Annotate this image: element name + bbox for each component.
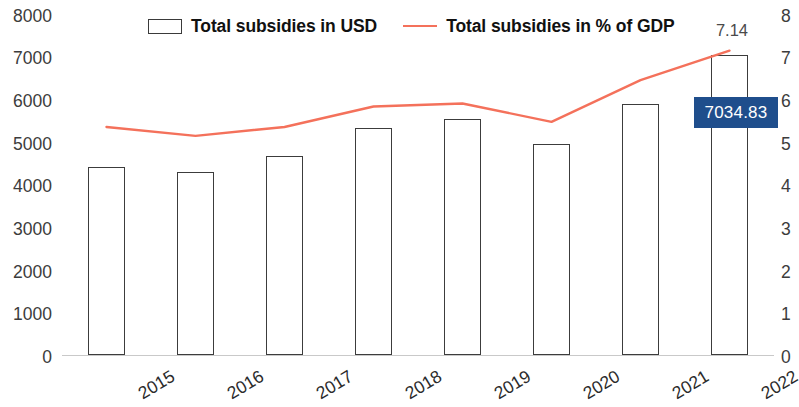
bar-2017[interactable] [266, 156, 303, 355]
y-left-tick-7000: 7000 [13, 50, 52, 68]
x-tick-2018: 2018 [401, 366, 445, 404]
y-right-tick-2: 2 [781, 264, 791, 282]
x-tick-2021: 2021 [668, 366, 712, 404]
x-tick-2016: 2016 [223, 366, 267, 404]
y-right-tick-8: 8 [781, 8, 791, 26]
value-callout-badge[interactable]: 7034.83 [694, 97, 778, 128]
bar-2016[interactable] [177, 172, 214, 355]
y-right-tick-3: 3 [781, 221, 791, 239]
y-right-tick-5: 5 [781, 136, 791, 154]
y-left-tick-3000: 3000 [13, 221, 52, 239]
y-right-tick-0: 0 [781, 349, 791, 367]
bar-2021[interactable] [622, 104, 659, 355]
y-right-tick-1: 1 [781, 306, 791, 324]
y-right-tick-6: 6 [781, 93, 791, 111]
y-left-tick-1000: 1000 [13, 306, 52, 324]
x-tick-2015: 2015 [134, 366, 178, 404]
y-left-tick-0: 0 [42, 349, 52, 367]
line-series-layer [62, 8, 774, 360]
chart-container: Total subsidies in USD Total subsidies i… [0, 0, 799, 407]
x-tick-2022: 2022 [757, 366, 799, 404]
bar-2019[interactable] [444, 119, 481, 355]
peak-percent-annotation: 7.14 [706, 21, 758, 40]
value-callout-text: 7034.83 [705, 103, 768, 123]
y-right-tick-4: 4 [781, 178, 791, 196]
y-left-tick-5000: 5000 [13, 136, 52, 154]
bar-2015[interactable] [88, 167, 125, 355]
y-right-tick-7: 7 [781, 50, 791, 68]
x-tick-2019: 2019 [490, 366, 534, 404]
x-tick-2017: 2017 [312, 366, 356, 404]
y-left-tick-4000: 4000 [13, 178, 52, 196]
y-left-tick-2000: 2000 [13, 264, 52, 282]
y-left-tick-8000: 8000 [13, 8, 52, 26]
y-left-tick-6000: 6000 [13, 93, 52, 111]
bar-2020[interactable] [533, 144, 570, 355]
bar-2018[interactable] [355, 128, 392, 355]
plot-area [62, 8, 774, 360]
x-tick-2020: 2020 [579, 366, 623, 404]
x-axis-baseline [62, 355, 774, 356]
